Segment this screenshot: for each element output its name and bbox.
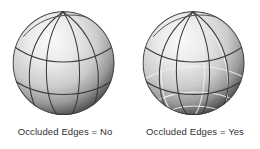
sphere-wireframe-svg-right <box>130 0 260 122</box>
caption-occluded-edges-yes: Occluded Edges = Yes <box>130 126 260 138</box>
panel-occluded-edges-no: Occluded Edges = No <box>0 0 130 149</box>
figure-occluded-edges-comparison: Occluded Edges = No <box>0 0 260 149</box>
panel-occluded-edges-yes: Occluded Edges = Yes <box>130 0 260 149</box>
sphere-wireframe-svg-left <box>0 0 130 122</box>
caption-occluded-edges-no: Occluded Edges = No <box>0 126 130 138</box>
sphere-render-no-occluded <box>0 0 130 122</box>
sphere-render-yes-occluded <box>130 0 260 122</box>
